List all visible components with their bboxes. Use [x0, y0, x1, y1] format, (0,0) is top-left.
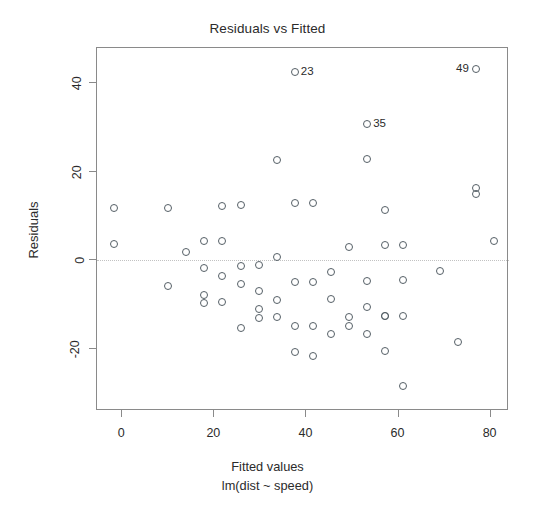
scatter-point [399, 241, 407, 249]
x-tick [305, 410, 306, 417]
scatter-point [218, 272, 226, 280]
residuals-vs-fitted-plot: Residuals vs Fitted 233549 020406080 -20… [0, 0, 535, 523]
scatter-point [182, 248, 190, 256]
y-tick-label-wrap: -20 [66, 339, 84, 357]
zero-reference-line [97, 260, 509, 261]
scatter-point [218, 202, 226, 210]
chart-title: Residuals vs Fitted [0, 21, 535, 36]
x-axis-label: Fitted values [0, 459, 535, 474]
y-tick-label-wrap: 20 [70, 162, 84, 180]
scatter-point [200, 237, 208, 245]
scatter-point [345, 313, 353, 321]
scatter-point [399, 312, 407, 320]
scatter-point [381, 347, 389, 355]
y-tick-label-wrap: 0 [77, 250, 84, 268]
scatter-point [381, 241, 389, 249]
scatter-point [200, 291, 208, 299]
scatter-point [255, 287, 263, 295]
x-tick-label: 0 [118, 427, 125, 440]
y-tick-label: 0 [74, 257, 87, 264]
x-tick-label: 40 [298, 427, 312, 440]
scatter-point [164, 204, 172, 212]
scatter-point [164, 282, 172, 290]
scatter-point [381, 206, 389, 214]
scatter-point [218, 298, 226, 306]
scatter-point [200, 264, 208, 272]
y-tick [89, 171, 96, 172]
scatter-point [200, 299, 208, 307]
scatter-point [291, 199, 299, 207]
scatter-point [363, 155, 371, 163]
scatter-point [345, 243, 353, 251]
scatter-point [255, 314, 263, 322]
scatter-point [237, 280, 245, 288]
scatter-point [309, 322, 317, 330]
scatter-point [436, 267, 444, 275]
x-tick [121, 410, 122, 417]
scatter-point [399, 276, 407, 284]
scatter-point [454, 338, 462, 346]
scatter-point [110, 240, 118, 248]
scatter-point [363, 277, 371, 285]
scatter-point [255, 305, 263, 313]
y-axis-label: Residuals [26, 201, 41, 258]
scatter-point [472, 190, 480, 198]
x-axis-sublabel: lm(dist ~ speed) [0, 478, 535, 493]
scatter-point [237, 324, 245, 332]
scatter-point [363, 330, 371, 338]
scatter-point [273, 156, 281, 164]
scatter-point [363, 120, 371, 128]
scatter-point [218, 237, 226, 245]
scatter-point [237, 262, 245, 270]
scatter-point [490, 237, 498, 245]
y-tick-label: 40 [71, 77, 84, 91]
scatter-point [291, 348, 299, 356]
scatter-point [327, 268, 335, 276]
scatter-point [309, 352, 317, 360]
point-label-35: 35 [373, 118, 386, 130]
x-tick-label: 20 [206, 427, 220, 440]
scatter-point [399, 382, 407, 390]
scatter-point [255, 261, 263, 269]
y-tick [89, 82, 96, 83]
y-tick-label-wrap: 40 [70, 73, 84, 91]
scatter-point [110, 204, 118, 212]
scatter-point [327, 295, 335, 303]
scatter-point [273, 296, 281, 304]
point-label-49: 49 [456, 63, 469, 75]
scatter-point [381, 312, 389, 320]
scatter-point [273, 313, 281, 321]
scatter-point [273, 253, 281, 261]
y-tick [89, 348, 96, 349]
y-tick-label: -20 [69, 340, 82, 358]
x-tick [213, 410, 214, 417]
scatter-point [345, 322, 353, 330]
scatter-point [363, 303, 371, 311]
scatter-point [237, 201, 245, 209]
y-tick [89, 259, 96, 260]
x-tick [398, 410, 399, 417]
x-tick-label: 80 [483, 427, 497, 440]
x-tick [490, 410, 491, 417]
y-tick-label: 20 [71, 165, 84, 179]
scatter-point [309, 278, 317, 286]
scatter-point [291, 278, 299, 286]
scatter-point [291, 68, 299, 76]
scatter-point [309, 199, 317, 207]
plot-frame: 233549 [96, 47, 508, 410]
scatter-point [327, 330, 335, 338]
scatter-point [472, 65, 480, 73]
point-label-23: 23 [301, 66, 314, 78]
scatter-point [291, 322, 299, 330]
x-tick-label: 60 [391, 427, 405, 440]
